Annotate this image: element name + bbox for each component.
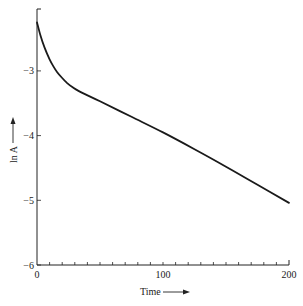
x-axis-arrow-icon [183,290,190,295]
x-axis-label: Time [140,286,161,297]
y-ticks: −3−4−5−6 [23,65,41,270]
x-tick-label: 200 [282,269,297,280]
y-axis-arrow-icon [11,117,16,124]
y-tick-label: −3 [23,65,34,76]
ln-a-vs-time-chart: 0100200 −3−4−5−6 Time ln A [0,0,303,306]
x-tick-label: 0 [35,269,40,280]
y-tick-label: −5 [23,195,34,206]
ln-a-curve [37,22,289,203]
y-tick-label: −6 [23,260,34,271]
x-axis-title: Time [140,286,190,297]
x-tick-label: 100 [156,269,171,280]
y-axis-label: ln A [8,145,19,163]
y-axis-title: ln A [8,117,19,163]
y-tick-label: −4 [23,130,34,141]
axes [37,9,289,265]
